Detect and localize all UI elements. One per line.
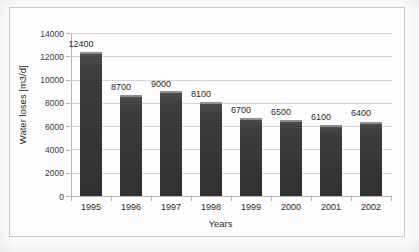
- x-axis-label-1998: 1998: [191, 203, 231, 212]
- bar-1998[interactable]: [200, 102, 222, 196]
- bar-value-label-1997: 9000: [141, 80, 181, 89]
- x-tick-mark-6: [311, 197, 312, 201]
- y-tick-label-14000: 14000: [22, 30, 64, 39]
- x-tick-mark-3: [191, 197, 192, 201]
- x-axis-label-2001: 2001: [311, 203, 351, 212]
- x-tick-mark-4: [231, 197, 232, 201]
- x-tick-mark-0: [71, 197, 72, 201]
- x-axis-label-1999: 1999: [231, 203, 271, 212]
- bar-2002[interactable]: [360, 122, 382, 197]
- y-axis-title: Water loses [m3/d]: [18, 35, 28, 175]
- bar-value-label-2002: 6400: [341, 109, 381, 118]
- y-tick-label-8000: 8000: [22, 99, 64, 108]
- bar-value-label-1995: 12400: [61, 40, 101, 49]
- x-tick-mark-2: [151, 197, 152, 201]
- bar-value-label-1998: 8100: [181, 90, 221, 99]
- x-tick-mark-7: [351, 197, 352, 201]
- bar-value-label-2001: 6100: [301, 113, 341, 122]
- x-tick-mark-5: [271, 197, 272, 201]
- bar-1997[interactable]: [160, 91, 182, 196]
- y-tick-label-12000: 12000: [22, 53, 64, 62]
- x-tick-mark-8: [391, 197, 392, 201]
- bar-value-label-1999: 6700: [221, 106, 261, 115]
- y-tick-label-0: 0: [22, 193, 64, 202]
- x-tick-mark-1: [111, 197, 112, 201]
- y-tick-label-10000: 10000: [22, 76, 64, 85]
- bar-value-label-2000: 6500: [261, 108, 301, 117]
- x-axis-label-1997: 1997: [151, 203, 191, 212]
- bar-value-label-1996: 8700: [101, 83, 141, 92]
- bar-1996[interactable]: [120, 95, 142, 196]
- y-tick-label-4000: 4000: [22, 146, 64, 155]
- gridline-14000: [71, 33, 392, 34]
- y-tick-label-2000: 2000: [22, 169, 64, 178]
- bar-1995[interactable]: [80, 52, 102, 196]
- x-axis-label-2000: 2000: [271, 203, 311, 212]
- gridline-10000: [71, 80, 392, 81]
- bar-2000[interactable]: [280, 120, 302, 196]
- chart-screenshot: 14000 12000 10000 8000 6000 4000 2000 0: [0, 0, 419, 252]
- bar-1999[interactable]: [240, 118, 262, 196]
- x-axis-title-text: Years: [209, 218, 233, 229]
- gridline-12000: [71, 56, 392, 57]
- x-axis-label-2002: 2002: [351, 203, 391, 212]
- x-axis-label-1996: 1996: [111, 203, 151, 212]
- x-axis-label-1995: 1995: [71, 203, 111, 212]
- bar-2001[interactable]: [320, 125, 342, 196]
- y-tick-label-6000: 6000: [22, 123, 64, 132]
- x-axis-title: Years: [0, 219, 419, 229]
